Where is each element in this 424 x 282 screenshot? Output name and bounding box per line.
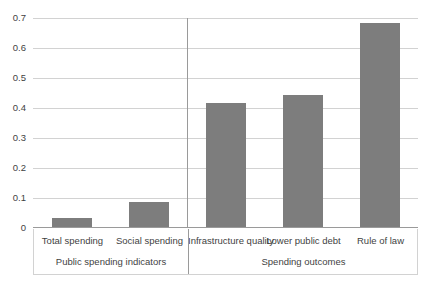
bar [206,103,246,228]
group-divider [187,18,188,228]
y-axis-tick-label: 0 [0,223,26,233]
bar-chart: 00.10.20.30.40.50.60.7 Total spendingSoc… [0,0,424,282]
group-axis-label: Spending outcomes [188,253,419,271]
group-label-row: Public spending indicatorsSpending outco… [34,253,417,273]
bar [283,95,323,227]
y-axis-tick-label: 0.1 [0,193,26,203]
category-axis-label: Lower public debt [265,232,342,250]
y-axis-tick-label: 0.4 [0,103,26,113]
bar [52,218,92,227]
y-axis-tick-label: 0.2 [0,163,26,173]
category-axis-label: Total spending [34,232,111,250]
category-axis-label: Rule of law [342,232,419,250]
y-axis-tick-label: 0.6 [0,43,26,53]
category-label-row: Total spendingSocial spendingInfrastruct… [34,232,417,252]
y-axis-tick-label: 0.5 [0,73,26,83]
plot-area [33,18,418,228]
bar [129,202,169,228]
y-axis-tick-label: 0.7 [0,13,26,23]
y-axis: 00.10.20.30.40.50.60.7 [0,0,30,282]
category-axis-label: Social spending [111,232,188,250]
bar [360,23,400,227]
x-axis-baseline [33,227,418,228]
group-divider-band [188,229,189,274]
y-axis-tick-label: 0.3 [0,133,26,143]
category-axis-label: Infrastructure quality [188,232,265,250]
bars-layer [33,18,418,228]
group-axis-label: Public spending indicators [34,253,188,271]
category-label-band: Total spendingSocial spendingInfrastruct… [33,229,418,275]
